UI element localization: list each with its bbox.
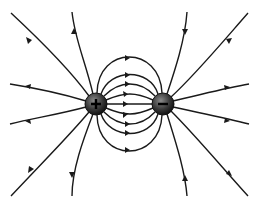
dipole-field-diagram bbox=[0, 0, 256, 207]
positive-charge bbox=[85, 93, 107, 115]
field-lines bbox=[10, 12, 249, 196]
negative-charge bbox=[152, 93, 174, 115]
